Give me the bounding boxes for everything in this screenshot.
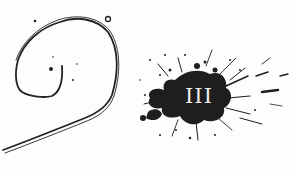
illustration-canvas: III [0,0,296,170]
spiral-hook-drawing [0,0,296,170]
roman-numeral-label: III [178,86,220,107]
